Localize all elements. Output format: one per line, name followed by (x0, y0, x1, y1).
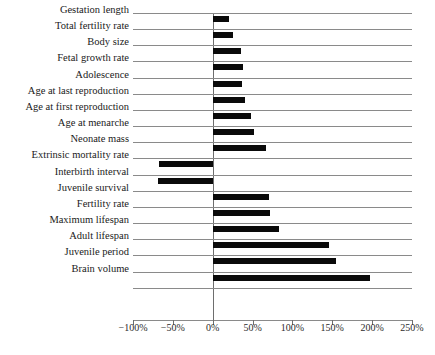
gridline (133, 13, 412, 14)
x-tick-label: −100% (119, 322, 148, 333)
bar (213, 48, 241, 54)
x-tick-label: −50% (161, 322, 185, 333)
category-label: Age at last reproduction (0, 85, 129, 96)
x-tick-label: 250% (400, 322, 423, 333)
category-label: Neonate mass (0, 133, 129, 144)
x-tick-label: 200% (360, 322, 383, 333)
gridline (133, 29, 412, 30)
gridline (133, 110, 412, 111)
category-label: Adolescence (0, 69, 129, 80)
bar (158, 178, 213, 184)
bar (213, 194, 270, 200)
category-label: Extrinsic mortality rate (0, 149, 129, 160)
bar (213, 81, 242, 87)
gridline (133, 78, 412, 79)
category-label: Age at first reproduction (0, 101, 129, 112)
category-label: Interbirth interval (0, 166, 129, 177)
gridline (133, 126, 412, 127)
gridline (133, 223, 412, 224)
x-tick-label: 50% (243, 322, 261, 333)
gridline (133, 255, 412, 256)
gridline (133, 158, 412, 159)
gridline (133, 288, 412, 289)
bar (213, 64, 243, 70)
category-label: Brain volume (0, 263, 129, 274)
gridline (133, 191, 412, 192)
category-label: Maximum lifespan (0, 214, 129, 225)
bar (213, 258, 337, 264)
category-label: Adult lifespan (0, 230, 129, 241)
bar (213, 113, 251, 119)
category-axis-labels: Gestation lengthTotal fertility rateBody… (0, 0, 129, 320)
category-label: Fetal growth rate (0, 52, 129, 63)
gridline (133, 239, 412, 240)
gridline (133, 272, 412, 273)
gridline (133, 61, 412, 62)
gridline (133, 175, 412, 176)
bar (213, 97, 246, 103)
bar (213, 210, 270, 216)
bar (159, 161, 212, 167)
gridline (133, 207, 412, 208)
gridline (133, 142, 412, 143)
plot-area (133, 13, 412, 320)
bar (213, 242, 329, 248)
category-label: Juvenile survival (0, 182, 129, 193)
category-label: Total fertility rate (0, 20, 129, 31)
category-label: Fertility rate (0, 198, 129, 209)
bar (213, 226, 279, 232)
bar (213, 32, 234, 38)
chart-container: Gestation lengthTotal fertility rateBody… (0, 0, 435, 355)
gridline (133, 45, 412, 46)
bar (213, 275, 370, 281)
category-label: Age at menarche (0, 117, 129, 128)
gridline (133, 94, 412, 95)
bar (213, 16, 230, 22)
x-tick-label: 0% (206, 322, 219, 333)
category-label: Juvenile period (0, 246, 129, 257)
bar (213, 145, 266, 151)
category-label: Gestation length (0, 4, 129, 15)
x-tick-label: 100% (281, 322, 304, 333)
category-label: Body size (0, 36, 129, 47)
bar (213, 129, 254, 135)
x-axis-tick-labels: −100%−50%0%50%100%150%200%250% (0, 322, 435, 342)
x-tick-label: 150% (321, 322, 344, 333)
